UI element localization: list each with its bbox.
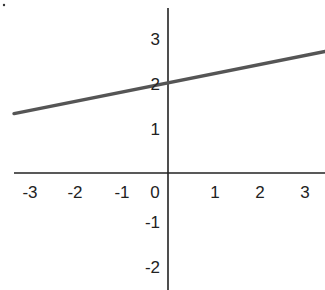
y-tick-label: -2: [145, 258, 160, 277]
y-tick-label: 1: [151, 120, 160, 139]
x-tick-label: -1: [114, 183, 129, 202]
y-tick-label: -1: [145, 213, 160, 232]
x-tick-label: -3: [22, 183, 37, 202]
x-tick-label: 3: [300, 183, 309, 202]
chart-background: [0, 0, 325, 290]
x-tick-label: 0: [150, 183, 159, 202]
y-tick-label: 3: [151, 30, 160, 49]
x-tick-label: -2: [67, 183, 82, 202]
y-tick-label: 2: [151, 75, 160, 94]
x-tick-label: 1: [210, 183, 219, 202]
stray-dot: [3, 4, 5, 6]
x-tick-label: 2: [255, 183, 264, 202]
line-chart: -3 -2 -1 0 1 2 3 3 2 1 -1 -2: [0, 0, 325, 290]
